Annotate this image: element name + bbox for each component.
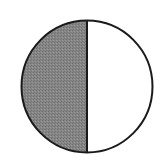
fraction-circle-svg <box>0 0 163 164</box>
fraction-circle-figure: 1/2 <box>0 0 163 164</box>
shaded-half <box>22 21 88 153</box>
unshaded-half <box>87 21 153 153</box>
